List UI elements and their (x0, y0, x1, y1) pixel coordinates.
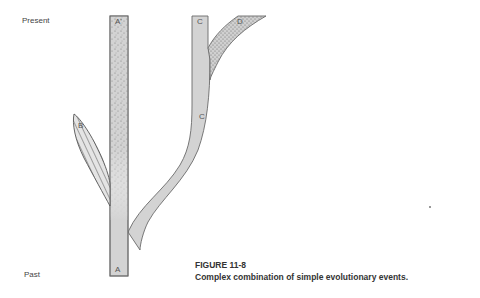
label-b: B (78, 121, 83, 130)
print-speck (429, 206, 431, 208)
evolutionary-tree-diagram: A' A B C C D (0, 0, 480, 298)
stipple-fade (111, 150, 128, 220)
lineage-c-branch (128, 16, 210, 250)
label-a-prime: A' (115, 17, 122, 26)
label-d: D (237, 17, 243, 26)
label-c-middle: C (199, 112, 205, 121)
figure-caption: FIGURE 11-8 Complex combination of simpl… (195, 259, 408, 283)
label-c-top: C (197, 17, 203, 26)
label-a: A (115, 265, 121, 274)
figure-title: Complex combination of simple evolutiona… (195, 271, 408, 283)
figure-number: FIGURE 11-8 (195, 259, 408, 271)
